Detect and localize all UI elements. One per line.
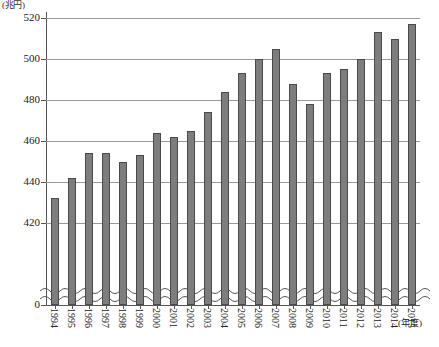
bar	[221, 92, 229, 305]
x-tick-label: 2000	[152, 308, 161, 328]
bar	[68, 178, 76, 305]
bar	[85, 153, 93, 305]
y-tick-mark	[41, 305, 46, 306]
y-axis-unit-label: (兆円)	[2, 0, 25, 11]
x-tick-label: 1998	[118, 308, 127, 328]
x-tick-label: 2013	[373, 308, 382, 328]
x-tick-label: 2011	[339, 308, 348, 328]
axis-break-squiggle	[40, 286, 430, 304]
y-tick-label: 420	[0, 217, 40, 227]
x-tick-label: 2005	[237, 308, 246, 328]
x-tick-label: 2014	[390, 308, 399, 328]
x-tick-label: 1999	[135, 308, 144, 328]
x-tick-label: 1996	[84, 308, 93, 328]
bar	[374, 32, 382, 305]
x-tick-label: 2010	[322, 308, 331, 328]
y-tick-label: 520	[0, 12, 40, 22]
bar	[272, 49, 280, 305]
y-tick-label: 440	[0, 176, 40, 186]
bar	[170, 137, 178, 305]
x-tick-label: 2009	[305, 308, 314, 328]
y-tick-label: 480	[0, 94, 40, 104]
bar	[289, 84, 297, 305]
bar-chart: (兆円) (年度) 520500480460440420019941995199…	[0, 0, 439, 347]
bar	[340, 69, 348, 305]
y-tick-mark	[41, 223, 46, 224]
bar	[323, 73, 331, 305]
x-tick-label: 1995	[67, 308, 76, 328]
bar	[153, 133, 161, 305]
bar	[51, 198, 59, 305]
y-tick-mark	[41, 100, 46, 101]
y-tick-mark	[41, 59, 46, 60]
y-tick-label: 0	[0, 299, 40, 309]
y-tick-label: 500	[0, 53, 40, 63]
bar	[408, 24, 416, 305]
x-tick-label: 2004	[220, 308, 229, 328]
bar	[187, 131, 195, 305]
gridline	[46, 18, 420, 19]
y-tick-mark	[41, 141, 46, 142]
x-tick-label: 2012	[356, 308, 365, 328]
x-axis-baseline	[46, 305, 420, 306]
bar	[255, 59, 263, 305]
bar	[204, 112, 212, 305]
x-tick-label: 2006	[254, 308, 263, 328]
y-tick-mark	[41, 182, 46, 183]
bar	[238, 73, 246, 305]
y-tick-label: 460	[0, 135, 40, 145]
x-tick-label: 1994	[50, 308, 59, 328]
bar	[306, 104, 314, 305]
x-tick-label: 2001	[169, 308, 178, 328]
x-tick-label: 2007	[271, 308, 280, 328]
x-tick-label: 2003	[203, 308, 212, 328]
x-tick-label: 2002	[186, 308, 195, 328]
y-tick-mark	[41, 18, 46, 19]
x-tick-label: 2008	[288, 308, 297, 328]
bar	[391, 39, 399, 306]
bar	[136, 155, 144, 305]
x-tick-label: 2015	[407, 308, 416, 328]
bar	[102, 153, 110, 305]
bar	[357, 59, 365, 305]
bar	[119, 162, 127, 306]
x-tick-label: 1997	[101, 308, 110, 328]
